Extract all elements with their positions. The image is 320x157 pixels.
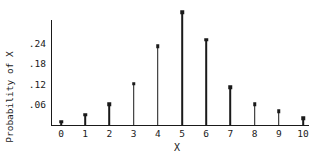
y-tick-label: .18	[29, 58, 46, 69]
stem-line	[278, 111, 280, 125]
stem-line	[109, 104, 111, 125]
stem-line	[205, 40, 207, 125]
y-axis-label-text: Probability of X	[4, 51, 15, 143]
x-tick-label: 9	[276, 128, 282, 139]
x-tick-label: 8	[252, 128, 258, 139]
stem-dot-marker	[277, 110, 281, 114]
x-tick-label: 0	[58, 128, 64, 139]
stem-dot-marker	[156, 45, 160, 49]
stem-dot-marker	[59, 120, 63, 124]
stem-line	[157, 46, 159, 125]
y-tick-label: .06	[29, 99, 46, 110]
x-tick-label: 3	[131, 128, 137, 139]
x-axis-line	[51, 125, 309, 126]
x-tick-label: 4	[155, 128, 161, 139]
x-tick-label: 2	[107, 128, 113, 139]
x-tick-label: 5	[179, 128, 185, 139]
x-tick-label: 10	[297, 128, 308, 139]
stem-line	[181, 12, 183, 125]
stem-line	[230, 87, 232, 125]
stem-dot-marker	[180, 10, 184, 14]
stem-dot-marker	[229, 86, 233, 90]
probability-stem-chart: Probability of X .06.12.18.24 0123456789…	[0, 0, 320, 157]
y-tick-label: .12	[29, 78, 46, 89]
y-axis-label: Probability of X	[2, 0, 16, 157]
x-tick-label: 6	[203, 128, 209, 139]
stem-line	[254, 104, 256, 125]
x-tick-label: 7	[228, 128, 234, 139]
stem-dot-marker	[108, 103, 112, 107]
y-axis-line	[51, 20, 52, 126]
stem-dot-marker	[83, 113, 87, 117]
x-axis-label: X	[174, 142, 180, 153]
x-tick-label: 1	[82, 128, 88, 139]
stem-dot-marker	[204, 38, 208, 42]
stem-line	[133, 84, 135, 125]
stem-dot-marker	[132, 82, 136, 86]
stem-dot-marker	[253, 103, 257, 107]
y-tick-label: .24	[29, 37, 46, 48]
stem-dot-marker	[301, 116, 305, 120]
